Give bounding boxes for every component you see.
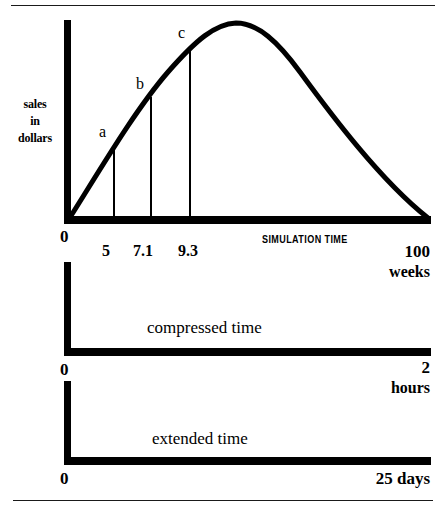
x-axis-caption: SIMULATION TIME (262, 234, 348, 245)
main-x-axis (64, 216, 431, 224)
curve-mark-b: b (136, 76, 144, 92)
compressed-band-label: compressed time (147, 319, 262, 336)
compressed-tick-0: 0 (60, 361, 69, 378)
main-tick-0: 0 (60, 228, 69, 245)
extended-x-axis (64, 457, 431, 465)
main-end-value: 100 (405, 242, 431, 261)
compressed-end-value: 2 (422, 358, 431, 377)
compressed-end-unit: hours (350, 380, 430, 396)
compressed-y-axis (64, 262, 71, 354)
y-axis-title-line-2: in (10, 115, 60, 127)
main-tick-5: 5 (102, 243, 110, 259)
main-y-axis (64, 20, 71, 223)
main-end-unit: weeks (350, 264, 430, 280)
compressed-x-axis (64, 348, 431, 356)
extended-y-axis (64, 381, 71, 463)
main-tick-7-1: 7.1 (133, 243, 153, 259)
compressed-end-label: 2 hours (350, 359, 430, 396)
curve-mark-a: a (99, 124, 106, 140)
main-tick-9-3: 9.3 (178, 243, 198, 259)
curve-mark-c: c (178, 25, 185, 41)
extended-band-label: extended time (152, 430, 248, 447)
figure-canvas: sales in dollars a b c 0 5 7.1 9.3 SIMUL… (0, 0, 445, 513)
y-axis-title-line-3: dollars (10, 132, 60, 144)
extended-tick-0: 0 (60, 470, 69, 487)
y-axis-title-line-1: sales (10, 98, 60, 110)
y-axis-title: sales in dollars (10, 93, 60, 149)
extended-end-label: 25 days (340, 470, 430, 487)
main-end-label: 100 weeks (350, 243, 430, 280)
main-chart-axes (64, 20, 431, 224)
sales-curve (69, 23, 428, 219)
